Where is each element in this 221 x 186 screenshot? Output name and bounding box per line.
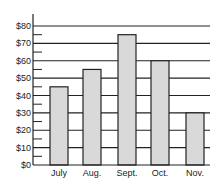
x-tick-label: Aug.	[83, 168, 102, 178]
x-tick-label: Sept.	[116, 168, 137, 178]
bar-chart: $0$10$20$30$40$50$60$70$80 JulyAug.Sept.…	[0, 0, 221, 186]
y-axis-labels: $0$10$20$30$40$50$60$70$80	[16, 21, 31, 170]
y-tick-label: $0	[21, 160, 31, 170]
bar-july	[50, 87, 68, 165]
y-tick-label: $70	[16, 38, 31, 48]
x-tick-label: July	[51, 168, 68, 178]
x-axis-labels: JulyAug.Sept.Oct.Nov.	[51, 168, 204, 178]
x-tick-label: Oct.	[152, 168, 169, 178]
bar-sept	[118, 35, 136, 165]
bar-nov	[186, 113, 204, 165]
y-tick-label: $30	[16, 108, 31, 118]
y-tick-label: $20	[16, 125, 31, 135]
bar-oct	[151, 61, 169, 165]
y-tick-label: $50	[16, 73, 31, 83]
x-tick-label: Nov.	[186, 168, 204, 178]
y-tick-label: $40	[16, 91, 31, 101]
y-tick-label: $10	[16, 143, 31, 153]
bars	[50, 35, 204, 165]
y-tick-label: $80	[16, 21, 31, 31]
bar-aug	[83, 69, 101, 165]
y-tick-label: $60	[16, 56, 31, 66]
